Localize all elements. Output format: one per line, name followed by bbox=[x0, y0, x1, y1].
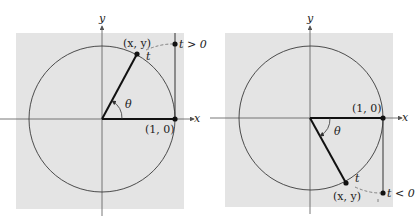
left-theta-label: θ bbox=[125, 98, 132, 111]
left-unit-point-label: (1, 0) bbox=[145, 123, 175, 136]
left-x-axis-label: x bbox=[194, 112, 201, 125]
right-unit-point-label: (1, 0) bbox=[352, 102, 382, 115]
left-point-unit bbox=[172, 116, 177, 121]
right-diagram: y x (1, 0) θ t (x, y) t < 0 bbox=[210, 12, 415, 214]
left-panel-background bbox=[16, 33, 184, 209]
right-theta-label: θ bbox=[334, 125, 341, 138]
right-x-axis-label: x bbox=[402, 111, 409, 124]
right-point-unit bbox=[380, 115, 385, 120]
right-point-xy-label: (x, y) bbox=[333, 190, 361, 203]
right-point-xy bbox=[343, 180, 348, 185]
unit-circle-figures: y x (x, y) t θ (1, 0) t > 0 y x (1, bbox=[0, 0, 420, 220]
left-point-t bbox=[172, 41, 177, 46]
left-diagram: y x (x, y) t θ (1, 0) t > 0 bbox=[0, 12, 207, 216]
left-point-xy-label: (x, y) bbox=[123, 37, 151, 50]
right-t-negative-label: t < 0 bbox=[387, 187, 415, 200]
left-point-xy bbox=[134, 51, 139, 56]
left-arc-t-label: t bbox=[146, 50, 151, 63]
left-y-axis-label: y bbox=[98, 12, 106, 25]
right-arc-t-label: t bbox=[355, 172, 360, 185]
right-point-t bbox=[380, 190, 385, 195]
right-panel-background bbox=[225, 33, 393, 207]
right-y-axis-label: y bbox=[306, 12, 314, 25]
left-t-positive-label: t > 0 bbox=[179, 38, 207, 51]
